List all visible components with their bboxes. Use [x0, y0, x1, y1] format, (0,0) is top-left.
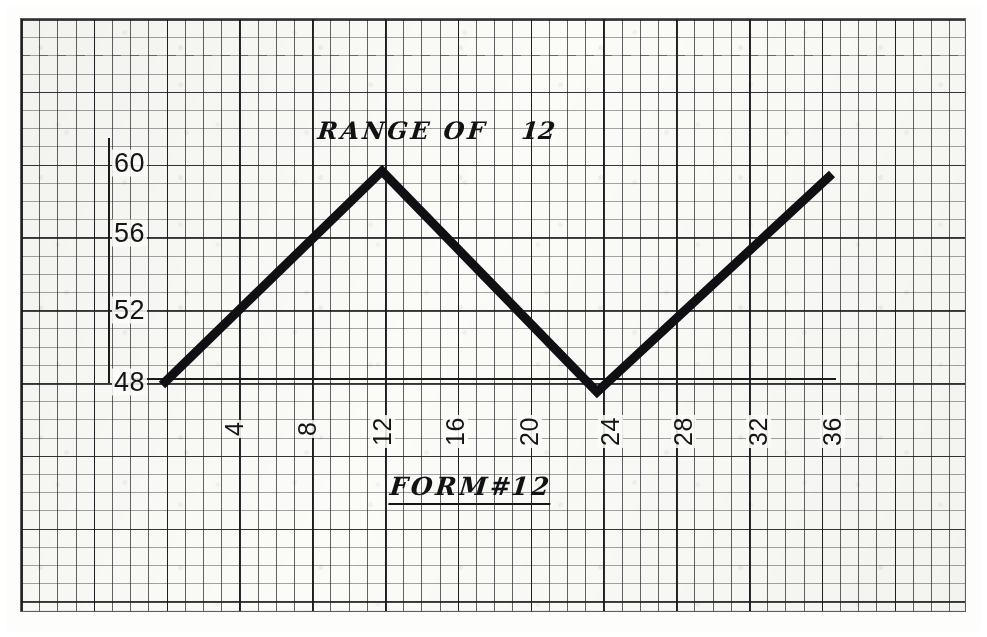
chart-title-value: 12: [520, 116, 556, 145]
x-tick-label-16: 16: [443, 415, 468, 448]
chart-title-text: RANGE OF: [316, 116, 489, 145]
chart-title: RANGE OF12: [316, 116, 556, 145]
x-tick-label-36: 36: [820, 415, 845, 448]
x-tick-label-12: 12: [370, 415, 395, 448]
scanned-chart-page: 60 56 52 48 4 8 12 16 20 24 28 32 36 RAN…: [0, 0, 987, 637]
x-tick-label-4: 4: [222, 420, 247, 438]
form-caption-prefix: FORM: [389, 472, 492, 501]
x-tick-label-20: 20: [517, 415, 542, 448]
y-tick-label-48: 48: [112, 369, 147, 396]
data-series-line: [162, 171, 832, 392]
x-tick-label-8: 8: [295, 420, 320, 438]
form-caption: FORM#12: [388, 472, 553, 505]
y-tick-label-56: 56: [112, 220, 147, 247]
y-tick-label-60: 60: [112, 150, 147, 177]
x-tick-label-24: 24: [598, 415, 623, 448]
chart-plot-area: [0, 0, 987, 637]
form-caption-number: 12: [510, 472, 554, 501]
x-tick-label-28: 28: [671, 415, 696, 448]
x-tick-label-32: 32: [746, 415, 771, 448]
y-tick-label-52: 52: [112, 297, 147, 324]
